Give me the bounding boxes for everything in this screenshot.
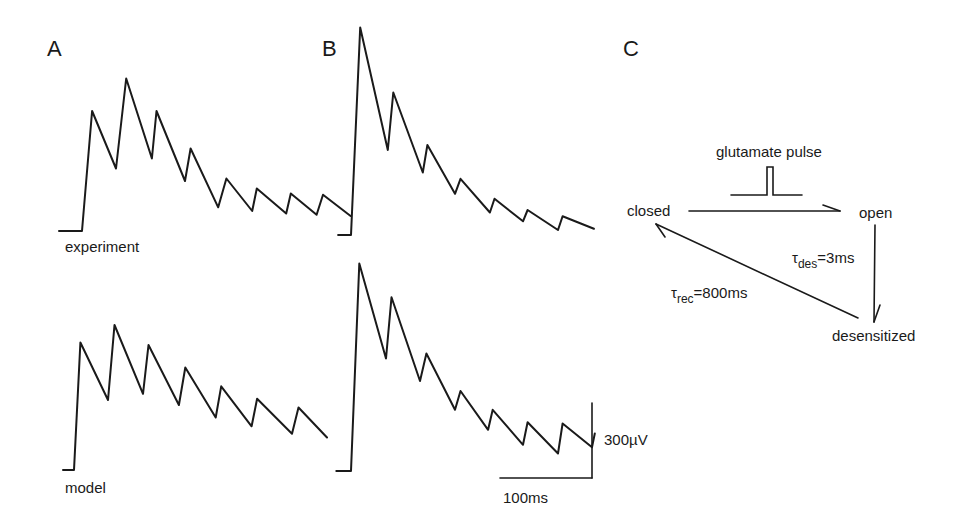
state-desensitized: desensitized <box>832 327 915 344</box>
traces-group <box>59 28 595 472</box>
scale-bar-voltage-label: 300µV <box>604 431 648 448</box>
trace-a-model <box>63 325 327 470</box>
tau-des-subscript: des <box>798 257 817 271</box>
arrow-open-desensitized <box>874 225 875 322</box>
panel-label-a: A <box>47 36 62 61</box>
pulse-icon <box>731 167 802 195</box>
tau-rec-value: =800ms <box>694 284 748 301</box>
tau-rec-label: τrec=800ms <box>671 284 747 306</box>
scale-bar: 300µV 100ms <box>500 403 648 506</box>
label-experiment: experiment <box>65 238 140 255</box>
trace-b-model <box>336 264 595 472</box>
tau-rec-subscript: rec <box>677 292 694 306</box>
figure: A B C experiment model 300µV 100ms gluta… <box>0 0 972 531</box>
trace-b-experiment <box>338 28 594 236</box>
state-open: open <box>859 204 892 221</box>
arrowhead-closed-open <box>823 205 840 211</box>
scale-bar-time-label: 100ms <box>503 489 548 506</box>
panel-label-c: C <box>623 36 639 61</box>
label-model: model <box>65 479 106 496</box>
tau-des-label: τdes=3ms <box>792 249 854 271</box>
stimulus-label: glutamate pulse <box>716 143 822 160</box>
state-diagram: glutamate pulse closed open desensitized… <box>627 143 915 344</box>
trace-a-experiment <box>59 79 351 232</box>
tau-des-value: =3ms <box>817 249 854 266</box>
state-closed: closed <box>627 202 670 219</box>
panel-label-b: B <box>322 36 337 61</box>
